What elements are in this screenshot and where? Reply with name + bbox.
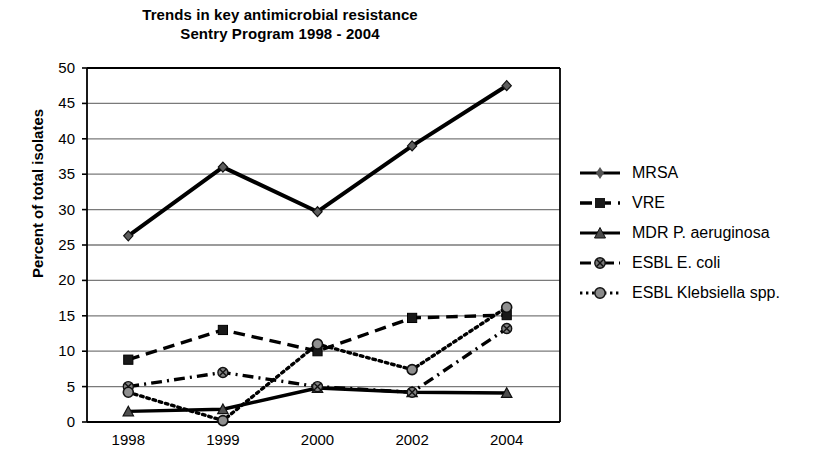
data-point-marker-circle-x: [502, 324, 512, 334]
data-point-marker-circle: [123, 387, 133, 397]
legend-marker-esbl-ecoli-icon: [578, 254, 622, 272]
y-axis-tick-label: 40: [31, 131, 75, 146]
x-axis-tick-label: 2000: [278, 432, 358, 447]
legend-label-1: VRE: [632, 194, 665, 212]
y-axis-tick-label: 15: [31, 308, 75, 323]
y-axis-tick-label: 35: [31, 166, 75, 181]
x-axis-tick-label: 2002: [372, 432, 452, 447]
legend-label-0: MRSA: [632, 164, 678, 182]
y-axis-tick-label: 0: [31, 414, 75, 429]
data-point-marker-circle: [502, 302, 512, 312]
y-axis-tick-label: 30: [31, 202, 75, 217]
data-series-layer: [123, 81, 512, 426]
data-point-marker-square: [124, 355, 133, 364]
series-esbl-klebsiella-spp: [123, 302, 511, 425]
y-axis-tick-label: 50: [31, 60, 75, 75]
legend-marker-esbl-klebsiella-icon: [578, 284, 622, 302]
legend-item-3[interactable]: ESBL E. coli: [578, 248, 780, 278]
legend-item-1[interactable]: VRE: [578, 188, 780, 218]
legend-label-3: ESBL E. coli: [632, 254, 720, 272]
legend-item-2[interactable]: MDR P. aeruginosa: [578, 218, 780, 248]
data-point-marker-square: [408, 313, 417, 322]
series-vre: [124, 310, 512, 364]
legend-label-2: MDR P. aeruginosa: [632, 224, 770, 242]
legend-label-4: ESBL Klebsiella spp.: [632, 284, 780, 302]
data-point-marker-circle-x: [407, 387, 417, 397]
legend-marker-mdr-icon: [578, 224, 622, 242]
data-point-marker-circle: [407, 365, 417, 375]
y-axis-tick-label: 5: [31, 379, 75, 394]
y-axis-tick-label: 45: [31, 95, 75, 110]
y-axis-tick-label: 20: [31, 272, 75, 287]
chart-title-line-1: Trends in key antimicrobial resistance: [0, 5, 560, 24]
series-mrsa: [124, 81, 512, 241]
legend-marker-vre-icon: [578, 194, 622, 212]
legend-item-4[interactable]: ESBL Klebsiella spp.: [578, 278, 780, 308]
data-point-marker-circle-x: [218, 367, 228, 377]
chart-title: Trends in key antimicrobial resistance S…: [0, 5, 560, 43]
y-axis-tick-label: 10: [31, 343, 75, 358]
data-point-marker-circle: [313, 339, 323, 349]
chart-legend: MRSA VRE MDR P. aeruginosa ESBL E. coli: [578, 158, 780, 308]
x-axis-tick-label: 1998: [88, 432, 168, 447]
chart-figure: Trends in key antimicrobial resistance S…: [0, 0, 823, 461]
data-point-marker-circle: [218, 416, 228, 426]
legend-marker-mrsa-icon: [578, 164, 622, 182]
data-point-marker-square: [218, 325, 227, 334]
x-axis-tick-label: 1999: [183, 432, 263, 447]
series-line: [128, 307, 506, 420]
x-axis-tick-label: 2004: [467, 432, 547, 447]
legend-item-0[interactable]: MRSA: [578, 158, 780, 188]
y-axis-tick-label: 25: [31, 237, 75, 252]
chart-title-line-2: Sentry Program 1998 - 2004: [0, 24, 560, 43]
data-point-marker-circle-x: [313, 382, 323, 392]
